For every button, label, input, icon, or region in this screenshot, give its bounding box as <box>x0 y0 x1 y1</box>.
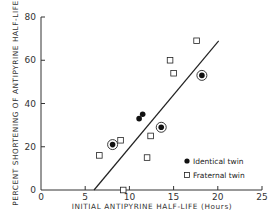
y-tick-label: 0 <box>30 185 36 195</box>
y-axis-title: PERCENT SHORTENING OF ANTIPYRINE HALF-LI… <box>11 0 20 205</box>
x-tick-label: 5 <box>82 192 88 202</box>
regression-line-path <box>94 41 219 190</box>
fraternal-twin-point <box>97 153 103 159</box>
data-points <box>97 38 207 193</box>
y-tick-label: 60 <box>25 55 37 65</box>
identical-twin-point <box>199 73 205 79</box>
legend-open-square-icon <box>185 173 190 178</box>
fraternal-twin-point <box>171 70 177 76</box>
legend-filled-circle-icon <box>184 158 189 163</box>
y-tick-label: 40 <box>25 99 37 109</box>
x-axis-title: INITIAL ANTIPYRINE HALF-LIFE (Hours) <box>72 202 233 211</box>
fraternal-twin-point <box>118 137 124 143</box>
regression-line <box>94 41 219 190</box>
legend: Identical twin Fraternal twin <box>184 157 245 180</box>
fraternal-twin-point <box>144 155 150 161</box>
y-tick-label: 80 <box>25 12 37 22</box>
fraternal-twin-point <box>148 133 154 139</box>
identical-twin-point <box>110 142 116 148</box>
x-tick-label: 15 <box>168 192 179 202</box>
identical-twin-point <box>158 124 164 130</box>
legend-label-fraternal: Fraternal twin <box>193 171 245 180</box>
legend-label-identical: Identical twin <box>193 157 244 166</box>
x-tick-label: 20 <box>212 192 224 202</box>
x-tick-label: 25 <box>256 192 267 202</box>
identical-twin-point <box>136 116 142 122</box>
x-tick-label: 0 <box>38 192 44 202</box>
fraternal-twin-point <box>120 187 126 193</box>
fraternal-twin-point <box>167 57 173 63</box>
x-tick-label: 10 <box>124 192 136 202</box>
scatter-chart: 0510152025020406080 Identical twin Frate… <box>0 0 279 222</box>
fraternal-twin-point <box>194 38 200 44</box>
y-tick-label: 20 <box>25 142 37 152</box>
identical-twin-point <box>140 112 146 118</box>
